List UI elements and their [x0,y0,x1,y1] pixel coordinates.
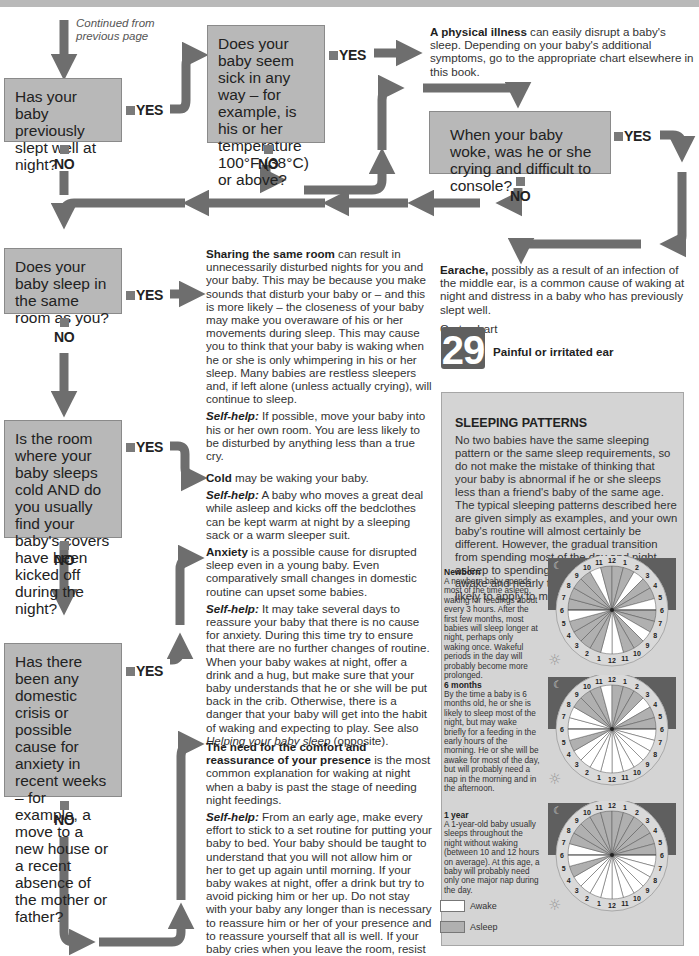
svg-text:6: 6 [660,726,664,733]
svg-text:10: 10 [633,895,641,902]
svg-text:6: 6 [560,726,564,733]
svg-text:4: 4 [567,632,571,639]
svg-text:1: 1 [623,678,627,685]
svg-text:2: 2 [585,650,589,657]
stage-title-6-months: 6 months [444,680,482,690]
svg-text:9: 9 [645,761,649,768]
svg-text:7: 7 [658,865,662,872]
panel-title: SLEEPING PATTERNS [455,416,587,430]
svg-text:11: 11 [621,900,629,907]
svg-text:11: 11 [621,655,629,662]
stage-title-1-year: 1 year [444,810,469,820]
svg-text:12: 12 [608,802,616,809]
question-box-slept-well: Has your baby previously slept well at n… [4,78,122,142]
svg-text:8: 8 [567,582,571,589]
continued-note: Continued from previous page [76,17,176,43]
answer-comfort: The need for the comfort and reassurance… [206,740,432,956]
svg-text:7: 7 [562,713,566,720]
question-box-sick: Does your baby seem sick in any way – fo… [207,25,325,143]
stage-text-newborn: A newborn baby spends most of the time a… [444,577,540,680]
no-label: NO [510,177,530,204]
svg-text:11: 11 [621,774,629,781]
yes-label: YES [126,102,163,118]
svg-text:7: 7 [562,594,566,601]
clock-1-year: 678910111212345678910111212345☾☼ [546,801,678,918]
moon-icon: ☾ [553,679,562,690]
svg-text:8: 8 [653,751,657,758]
svg-text:8: 8 [653,632,657,639]
svg-text:12: 12 [608,902,616,909]
svg-text:2: 2 [585,769,589,776]
stage-text-6-months: By the time a baby is 6 months old, he o… [444,690,540,793]
svg-text:2: 2 [635,683,639,690]
no-label: NO [54,145,74,172]
yes-label: YES [329,47,366,63]
no-label: NO [54,801,74,828]
question-text: Does your baby sleep in the same room as… [15,258,109,326]
svg-text:5: 5 [562,865,566,872]
svg-text:2: 2 [585,895,589,902]
legend-asleep-swatch [440,921,465,933]
answer-physical-illness: A physical illness can easily disrupt a … [430,25,695,78]
svg-text:4: 4 [653,582,657,589]
svg-text:7: 7 [658,620,662,627]
svg-text:11: 11 [595,804,603,811]
yes-label: YES [614,128,651,144]
svg-text:2: 2 [635,564,639,571]
svg-text:5: 5 [658,839,662,846]
sleeping-patterns-panel: SLEEPING PATTERNS No two babies have the… [441,392,684,946]
svg-text:3: 3 [575,887,579,894]
svg-text:11: 11 [595,559,603,566]
svg-text:8: 8 [567,701,571,708]
svg-text:10: 10 [583,809,591,816]
question-box-anxiety: Has there been any domestic crisis or po… [4,643,122,797]
svg-text:7: 7 [658,739,662,746]
stage-title-newborn: Newborn [444,567,480,577]
chart-29-title[interactable]: Painful or irritated ear [493,345,613,358]
answer-anxiety: Anxiety is a possible cause for disrupte… [206,545,432,751]
clock-newborn: 678910111212345678910111212345☾☼ [546,556,678,673]
svg-text:3: 3 [645,691,649,698]
svg-text:5: 5 [658,713,662,720]
svg-text:4: 4 [653,827,657,834]
svg-text:9: 9 [575,572,579,579]
svg-text:9: 9 [645,887,649,894]
svg-text:9: 9 [645,642,649,649]
svg-text:4: 4 [653,701,657,708]
no-label: NO [258,145,278,172]
svg-text:9: 9 [575,817,579,824]
svg-text:8: 8 [653,877,657,884]
svg-text:9: 9 [575,691,579,698]
stage-text-1-year: A 1-year-old baby usually sleeps through… [444,820,540,895]
svg-text:7: 7 [562,839,566,846]
yes-label: YES [126,663,163,679]
svg-text:1: 1 [597,655,601,662]
clock-6-months: 678910111212345678910111212345☾☼ [546,675,678,792]
svg-text:6: 6 [560,607,564,614]
svg-text:8: 8 [567,827,571,834]
svg-text:3: 3 [575,642,579,649]
moon-icon: ☾ [553,805,562,816]
svg-text:12: 12 [608,557,616,564]
svg-text:1: 1 [623,804,627,811]
svg-text:3: 3 [645,817,649,824]
svg-text:5: 5 [562,739,566,746]
svg-text:12: 12 [608,676,616,683]
chart-29-link[interactable]: 29 [441,327,485,369]
svg-text:3: 3 [645,572,649,579]
svg-text:6: 6 [660,607,664,614]
no-label: NO [54,318,74,345]
svg-text:10: 10 [583,564,591,571]
svg-text:6: 6 [660,852,664,859]
yes-label: YES [126,439,163,455]
sun-icon: ☼ [548,770,561,788]
svg-text:4: 4 [567,877,571,884]
no-label: NO [54,541,74,568]
svg-text:10: 10 [583,683,591,690]
answer-sharing-room: Sharing the same room can result in unne… [206,247,432,466]
svg-text:12: 12 [608,776,616,783]
svg-text:10: 10 [633,650,641,657]
svg-text:12: 12 [608,657,616,664]
svg-text:4: 4 [567,751,571,758]
sun-icon: ☼ [548,651,561,669]
